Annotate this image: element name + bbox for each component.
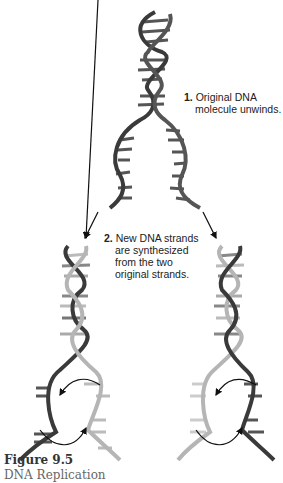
step-2-number: 2.: [104, 232, 113, 244]
step-2-label: 2. New DNA strands are synthesized from …: [104, 232, 199, 280]
figure-number: Figure 9.5: [4, 453, 106, 467]
direction-arrow-upper-right: [216, 379, 256, 395]
step-2-text-line-4: original strands.: [104, 268, 199, 280]
step-2-text-line-1: New DNA strands: [116, 232, 199, 244]
step-2-text-line-3: from the two: [104, 256, 199, 268]
arrow-left: [86, 0, 98, 238]
step-1-number: 1.: [184, 91, 193, 103]
arrow-right: [203, 212, 216, 238]
step-1-label: 1. Original DNA molecule unwinds.: [184, 91, 281, 115]
step-2-text-line-2: are synthesized: [104, 244, 199, 256]
step-1-text-line-1: Original DNA: [196, 91, 257, 103]
step-1-text-line-2: molecule unwinds.: [184, 103, 281, 115]
figure-caption: Figure 9.5 DNA Replication: [4, 453, 106, 482]
direction-arrow-upper-left: [60, 379, 100, 395]
figure-title: DNA Replication: [4, 468, 106, 482]
dna-replication-figure: 1. Original DNA molecule unwinds. 2. New…: [0, 0, 283, 483]
